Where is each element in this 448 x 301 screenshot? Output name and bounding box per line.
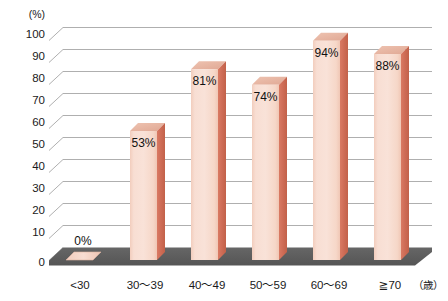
y-tick-label-0: 0 — [39, 256, 45, 268]
bar-front-60-69[interactable] — [313, 41, 340, 260]
bar-side-50-59[interactable] — [279, 77, 287, 260]
bar-side-30-39[interactable] — [157, 123, 165, 260]
bar-group-ge70[interactable]: 88% — [374, 46, 409, 260]
y-tick-label-80: 80 — [32, 72, 45, 84]
y-axis: (%) 100 90 80 70 60 50 40 30 20 10 0 — [26, 8, 45, 268]
x-tick-label-ge70: ≧70 — [379, 279, 401, 291]
bar-front-50-59[interactable] — [252, 85, 279, 260]
y-axis-unit-label: (%) — [29, 8, 45, 20]
bar-group-lt30[interactable]: 0% — [66, 234, 101, 260]
bar-value-label-30-39: 53% — [131, 136, 155, 150]
y-tick-label-40: 40 — [32, 160, 45, 172]
bar-value-label-50-59: 74% — [253, 90, 277, 104]
gridline-100 — [49, 28, 432, 41]
y-tick-label-20: 20 — [32, 204, 45, 216]
bar-chart-3d: (%) 100 90 80 70 60 50 40 30 20 10 0 0% … — [0, 0, 448, 301]
y-tick-label-10: 10 — [32, 226, 45, 238]
bar-front-40-49[interactable] — [191, 69, 218, 260]
x-tick-label-40-49: 40〜49 — [189, 279, 226, 291]
x-tick-label-30-39: 30〜39 — [127, 279, 164, 291]
x-tick-label-lt30: <30 — [70, 279, 90, 291]
y-tick-label-70: 70 — [32, 94, 45, 106]
bar-side-40-49[interactable] — [218, 61, 226, 260]
bar-value-label-60-69: 94% — [314, 46, 338, 60]
bar-front-30-39[interactable] — [130, 131, 157, 260]
bar-group-60-69[interactable]: 94% — [313, 33, 348, 260]
y-tick-label-30: 30 — [32, 182, 45, 194]
bar-value-label-40-49: 81% — [192, 74, 216, 88]
chart-canvas: (%) 100 90 80 70 60 50 40 30 20 10 0 0% … — [0, 0, 448, 301]
y-tick-label-60: 60 — [32, 116, 45, 128]
bar-side-60-69[interactable] — [340, 33, 348, 260]
y-tick-label-90: 90 — [32, 50, 45, 62]
x-axis: <30 30〜39 40〜49 50〜59 60〜69 ≧70 （歳） — [70, 279, 443, 291]
x-tick-label-60-69: 60〜69 — [311, 279, 348, 291]
x-axis-unit-label: （歳） — [413, 279, 443, 291]
bar-group-40-49[interactable]: 81% — [191, 61, 226, 260]
bar-value-label-ge70: 88% — [375, 59, 399, 73]
bar-front-ge70[interactable] — [374, 54, 401, 260]
x-tick-label-50-59: 50〜59 — [250, 279, 287, 291]
y-tick-label-50: 50 — [32, 138, 45, 150]
y-tick-label-100: 100 — [26, 28, 45, 40]
bar-side-ge70[interactable] — [401, 46, 409, 260]
bar-group-50-59[interactable]: 74% — [252, 77, 287, 260]
bar-group-30-39[interactable]: 53% — [130, 123, 165, 260]
bar-value-label-lt30: 0% — [74, 234, 92, 248]
